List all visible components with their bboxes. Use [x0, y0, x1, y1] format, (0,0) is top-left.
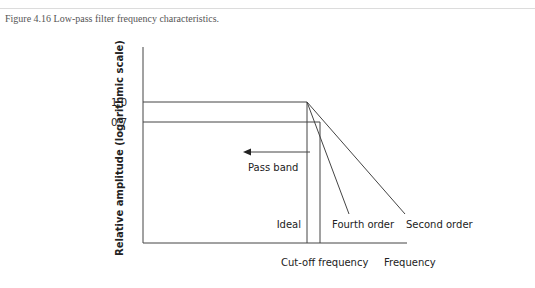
second-order-label: Second order [406, 219, 474, 230]
arrow-head-icon [243, 149, 251, 156]
fourth-order-curve [307, 102, 349, 214]
fourth-order-label: Fourth order [332, 219, 395, 230]
filter-diagram: Relative amplitude (logarithmic scale) 1… [0, 0, 535, 288]
y-axis-label: Relative amplitude (logarithmic scale) [114, 40, 125, 256]
tick-1: 1.0 [111, 97, 127, 108]
pass-band-label: Pass band [248, 162, 298, 173]
ideal-label: Ideal [277, 219, 301, 230]
cutoff-label: Cut-off frequency [281, 257, 368, 268]
second-order-curve [307, 102, 405, 214]
x-axis-label: Frequency [384, 257, 436, 268]
tick-07: 0.7 [111, 117, 127, 128]
